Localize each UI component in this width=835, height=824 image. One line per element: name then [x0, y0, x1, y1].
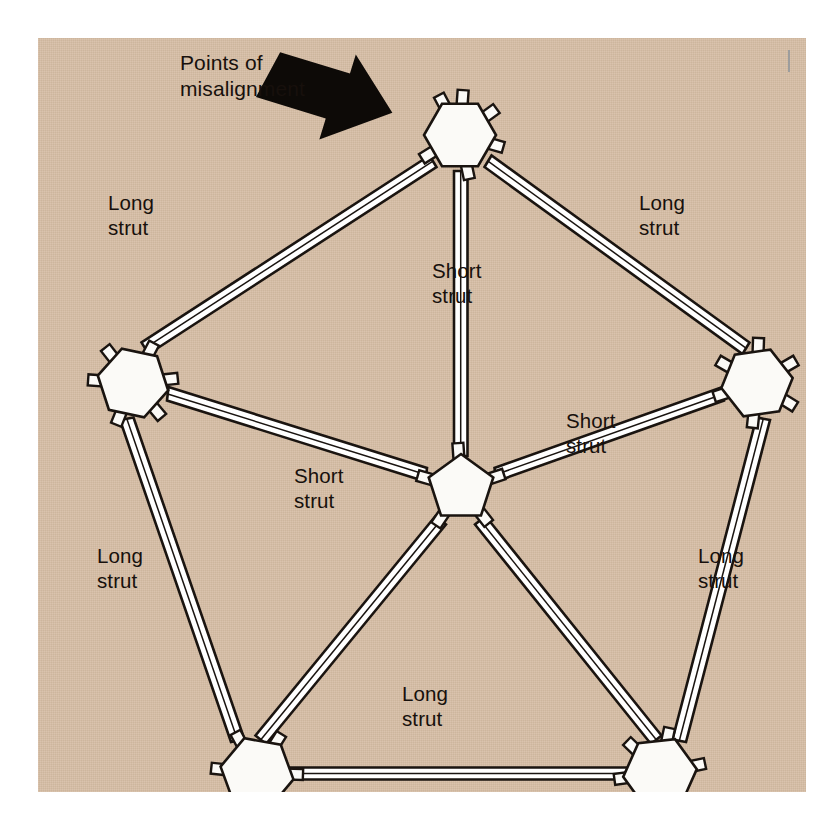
callout-line-2: misalignment: [180, 77, 305, 100]
callout-points-of-misalignment: Points ofmisalignment: [180, 50, 305, 102]
label-line-2: strut: [639, 216, 679, 239]
label-line-2: strut: [566, 434, 606, 457]
strut-center-to-bottom-right: [475, 516, 662, 744]
label-line-2: strut: [698, 569, 738, 592]
label-line-1: Short: [566, 409, 616, 432]
strut-bottom: [290, 768, 628, 780]
label-long-strut-upper-right: Longstrut: [639, 190, 685, 240]
label-line-1: Long: [97, 544, 143, 567]
label-line-2: strut: [108, 216, 148, 239]
label-line-1: Long: [698, 544, 744, 567]
label-line-1: Short: [432, 259, 482, 282]
label-long-strut-upper-left: Longstrut: [108, 190, 154, 240]
label-line-1: Short: [294, 464, 344, 487]
label-line-2: strut: [294, 489, 334, 512]
strut-top-to-left: [142, 156, 437, 355]
label-long-strut-lower-right: Longstrut: [698, 543, 744, 593]
label-line-2: strut: [97, 569, 137, 592]
diagram-panel: Points ofmisalignment Longstrut Longstru…: [38, 38, 806, 792]
label-long-strut-lower-left: Longstrut: [97, 543, 143, 593]
label-line-1: Long: [402, 682, 448, 705]
node-center-body: [429, 454, 494, 516]
label-long-strut-bottom: Longstrut: [402, 681, 448, 731]
label-line-2: strut: [402, 707, 442, 730]
label-short-strut-right: Shortstrut: [566, 408, 616, 458]
node-right: [706, 332, 806, 434]
callout-line-1: Points of: [180, 51, 263, 74]
label-line-1: Long: [639, 191, 685, 214]
label-line-2: strut: [432, 284, 472, 307]
strut-top-to-center: [454, 171, 468, 456]
node-bottom-left-body: [215, 735, 299, 792]
label-short-strut-top-center: Shortstrut: [432, 258, 482, 308]
label-short-strut-left: Shortstrut: [294, 463, 344, 513]
strut-framework-diagram: [38, 38, 806, 792]
node-center: [416, 443, 505, 529]
figure-root: Points ofmisalignment Longstrut Longstru…: [0, 0, 835, 824]
label-line-1: Long: [108, 191, 154, 214]
strut-top-to-right: [485, 156, 750, 355]
